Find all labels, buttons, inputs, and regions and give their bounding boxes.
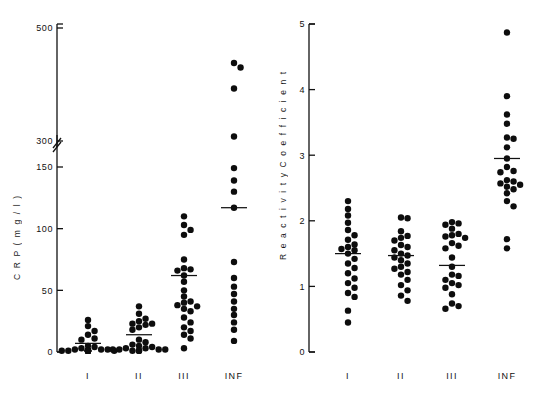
data-point xyxy=(181,287,187,293)
data-point xyxy=(187,328,193,334)
data-point xyxy=(181,222,187,228)
data-point xyxy=(181,345,187,351)
data-point xyxy=(181,306,187,312)
data-point xyxy=(455,243,461,249)
data-point xyxy=(351,294,357,300)
x-category-label-ii: II xyxy=(135,371,143,381)
data-point xyxy=(398,282,404,288)
data-point xyxy=(455,231,461,237)
data-point xyxy=(345,290,351,296)
crp-plot-area: 050100150300500IIIIIIINF xyxy=(0,0,271,395)
data-point xyxy=(504,245,510,251)
data-point xyxy=(187,335,193,341)
data-point xyxy=(345,280,351,286)
data-point xyxy=(98,346,104,352)
x-category-label-inf: INF xyxy=(225,371,244,381)
data-point xyxy=(231,312,237,318)
data-point xyxy=(78,345,84,351)
data-point xyxy=(449,225,455,231)
data-point xyxy=(351,241,357,247)
y-tick-label: 5 xyxy=(299,19,305,29)
data-point xyxy=(231,275,237,281)
data-point xyxy=(181,314,187,320)
data-point xyxy=(85,317,91,323)
data-point xyxy=(351,265,357,271)
data-point xyxy=(136,336,142,342)
data-point xyxy=(351,275,357,281)
y-tick-label: 0 xyxy=(47,347,53,357)
data-point xyxy=(187,319,193,325)
data-point xyxy=(59,348,65,354)
y-tick-label: 500 xyxy=(36,23,53,33)
data-point xyxy=(504,93,510,99)
data-point xyxy=(129,348,135,354)
data-point xyxy=(345,307,351,313)
data-point xyxy=(345,319,351,325)
data-point xyxy=(181,256,187,262)
data-point xyxy=(449,219,455,225)
data-point xyxy=(181,265,187,271)
data-point xyxy=(504,236,510,242)
data-point xyxy=(455,282,461,288)
data-point xyxy=(504,134,510,140)
data-point xyxy=(442,277,448,283)
data-point xyxy=(391,247,397,253)
data-point xyxy=(455,220,461,226)
data-point xyxy=(231,177,237,183)
data-point xyxy=(187,266,193,272)
x-category-label-iii: III xyxy=(446,371,458,381)
data-point xyxy=(404,215,410,221)
data-point xyxy=(351,247,357,253)
data-point xyxy=(504,121,510,127)
y-tick-label: 300 xyxy=(36,136,53,146)
data-point xyxy=(391,265,397,271)
data-point xyxy=(391,237,397,243)
data-point xyxy=(504,177,510,183)
x-category-label-i: I xyxy=(86,371,90,381)
data-point xyxy=(517,182,523,188)
data-point xyxy=(442,222,448,228)
data-point xyxy=(91,344,97,350)
data-point xyxy=(65,348,71,354)
data-point xyxy=(174,267,180,273)
data-point xyxy=(231,298,237,304)
data-point xyxy=(398,214,404,220)
data-point xyxy=(136,303,142,309)
data-point xyxy=(504,29,510,35)
data-point xyxy=(129,341,135,347)
data-point xyxy=(510,136,516,142)
data-point xyxy=(231,338,237,344)
data-point xyxy=(187,298,193,304)
data-point xyxy=(181,324,187,330)
data-point xyxy=(181,332,187,338)
data-point xyxy=(404,277,410,283)
data-point xyxy=(449,300,455,306)
data-point xyxy=(510,186,516,192)
data-point xyxy=(398,264,404,270)
data-point xyxy=(449,254,455,260)
crp-panel: C R P ( m g / l ) 050100150300500IIIIIII… xyxy=(0,0,271,395)
data-point xyxy=(181,279,187,285)
series-ii xyxy=(110,303,169,354)
data-point xyxy=(442,285,448,291)
data-point xyxy=(345,244,351,250)
data-point xyxy=(404,260,410,266)
y-tick-label: 4 xyxy=(299,85,305,95)
data-point xyxy=(442,245,448,251)
data-point xyxy=(72,346,78,352)
y-tick-label: 100 xyxy=(36,224,53,234)
data-point xyxy=(345,270,351,276)
data-point xyxy=(510,203,516,209)
data-point xyxy=(398,292,404,298)
series-inf xyxy=(497,29,523,251)
data-point xyxy=(345,260,351,266)
data-point xyxy=(142,345,148,351)
data-point xyxy=(404,233,410,239)
data-point xyxy=(136,318,142,324)
data-point xyxy=(449,280,455,286)
y-tick-label: 2 xyxy=(299,216,305,226)
data-point xyxy=(398,235,404,241)
series-ii xyxy=(391,214,411,304)
y-tick-label: 50 xyxy=(42,286,53,296)
data-point xyxy=(231,133,237,139)
